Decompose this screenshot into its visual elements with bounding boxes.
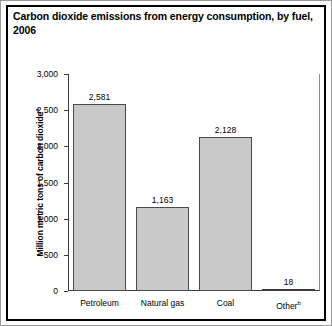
chart-title-line-2: 2006 <box>13 24 321 38</box>
x-axis-category-text: Other <box>276 301 297 311</box>
bar <box>199 137 252 291</box>
chart-title-line-1: Carbon dioxide emissions from energy con… <box>13 10 321 24</box>
y-axis-tick-label: 1,000 <box>37 214 58 224</box>
bar <box>262 289 315 292</box>
y-axis-tick-labels: 3,0002,5002,0001,5001,0005000 <box>1 1 58 326</box>
y-axis-tick-mark <box>64 291 68 292</box>
x-axis-category-label: Otherb <box>244 298 332 312</box>
bar-value-label: 2,581 <box>60 92 140 102</box>
x-axis-category-superscript: b <box>297 300 300 306</box>
bar <box>136 207 189 291</box>
bar <box>73 104 126 291</box>
y-axis-tick-label: 500 <box>44 250 58 260</box>
chart-figure: Carbon dioxide emissions from energy con… <box>0 0 332 326</box>
y-axis-tick-label: 2,500 <box>37 105 58 115</box>
bar-value-label: 18 <box>249 277 329 287</box>
y-axis-tick-label: 3,000 <box>37 69 58 79</box>
x-axis-category-text: Natural gas <box>141 298 184 308</box>
y-axis-tick-label: 2,000 <box>37 141 58 151</box>
y-axis-tick-label: 1,500 <box>37 178 58 188</box>
bar-value-label: 2,128 <box>186 125 266 135</box>
bar-value-label: 1,163 <box>123 195 203 205</box>
x-axis-category-text: Petroleum <box>80 298 119 308</box>
y-axis-tick-label: 0 <box>53 286 58 296</box>
x-axis-category-text: Coal <box>217 298 234 308</box>
chart-title: Carbon dioxide emissions from energy con… <box>13 10 321 37</box>
